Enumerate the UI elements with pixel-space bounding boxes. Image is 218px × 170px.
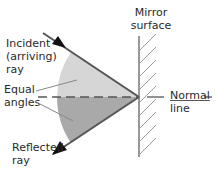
mirror-hatching: [140, 34, 156, 154]
reflected-label-line2: ray: [12, 154, 64, 167]
incident-label-line2: (arriving): [6, 50, 57, 63]
mirror-label-line2: surface: [120, 19, 182, 32]
normal-label-line2: line: [170, 102, 210, 115]
mirror-label-line1: Mirror: [120, 6, 182, 19]
incident-label-line3: ray: [6, 63, 57, 76]
normal-line-label: Normal line: [170, 89, 210, 115]
equal-label-line2: angles: [4, 96, 40, 109]
incident-label-line1: Incident: [6, 37, 57, 50]
mirror-surface-label: Mirror surface: [120, 6, 182, 32]
normal-label-line1: Normal: [170, 89, 210, 102]
incident-ray-label: Incident (arriving) ray: [6, 37, 57, 76]
reflected-ray-label: Reflected ray: [12, 141, 64, 167]
reflected-angle-wedge: [57, 97, 139, 143]
incident-angle-wedge: [57, 52, 139, 97]
equal-label-line1: Equal: [4, 83, 40, 96]
equal-angles-label: Equal angles: [4, 83, 40, 109]
reflected-label-line1: Reflected: [12, 141, 64, 154]
